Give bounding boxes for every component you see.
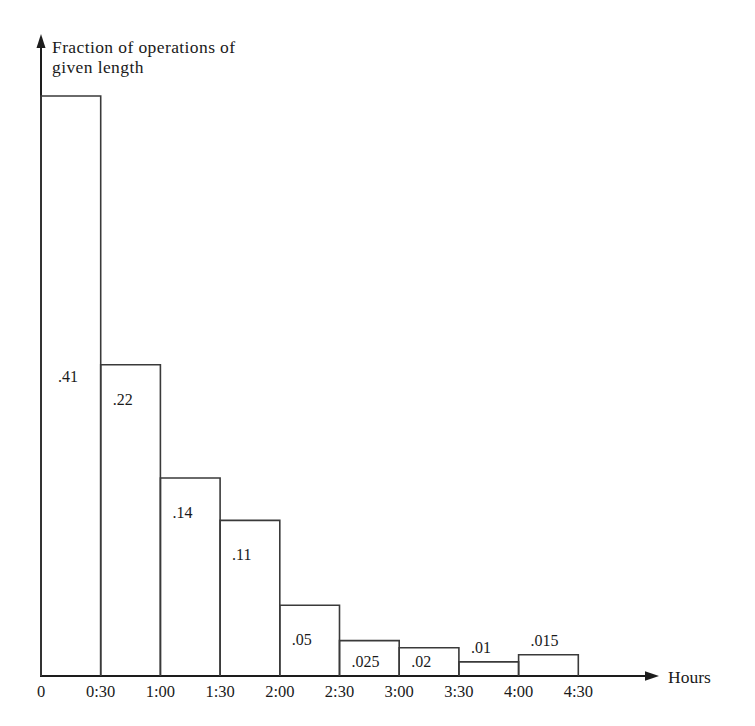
x-axis-tick-label: 3:30 (444, 682, 473, 701)
bar-value-label: .025 (352, 653, 380, 670)
x-axis-tick-label: 0:30 (86, 682, 115, 701)
x-axis-arrow-icon (645, 671, 659, 680)
bar-value-label: .015 (531, 632, 559, 649)
histogram-bar (220, 520, 280, 676)
bars-layer (41, 96, 578, 676)
histogram-bar (101, 365, 161, 676)
bar-value-label: .02 (411, 653, 431, 670)
histogram-figure: Fraction of operations of given length H… (0, 0, 755, 726)
histogram-bar (459, 662, 519, 676)
x-axis-tick-label: 2:30 (325, 682, 354, 701)
x-axis-tick-labels-layer: 00:301:001:302:002:303:003:304:004:30 (37, 682, 593, 701)
histogram-bar (41, 96, 101, 676)
bar-value-label: .22 (113, 391, 133, 408)
y-axis-title-line-1: Fraction of operations of (52, 37, 236, 57)
bar-value-label: .05 (292, 631, 312, 648)
x-axis-tick-label: 2:00 (265, 682, 294, 701)
x-axis-label: Hours (668, 667, 711, 687)
y-axis-arrow-icon (37, 34, 46, 48)
x-axis-tick-label: 4:00 (504, 682, 533, 701)
x-axis-tick-label: 1:00 (146, 682, 175, 701)
x-axis-tick-label: 0 (37, 682, 45, 701)
x-axis-tick-label: 4:30 (564, 682, 593, 701)
y-axis-title-line-2: given length (52, 57, 144, 77)
x-axis-tick-label: 3:00 (385, 682, 414, 701)
bar-value-label: .01 (471, 639, 491, 656)
x-axis-tick-label: 1:30 (205, 682, 234, 701)
histogram-bar (519, 655, 579, 676)
histogram-chart-canvas: Fraction of operations of given length H… (0, 0, 755, 726)
bar-value-labels-layer: .41.22.14.11.05.025.02.01.015 (58, 368, 559, 670)
bar-value-label: .41 (58, 368, 78, 385)
bar-value-label: .11 (232, 546, 251, 563)
x-axis: Hours (41, 667, 711, 687)
bar-value-label: .14 (172, 504, 192, 521)
